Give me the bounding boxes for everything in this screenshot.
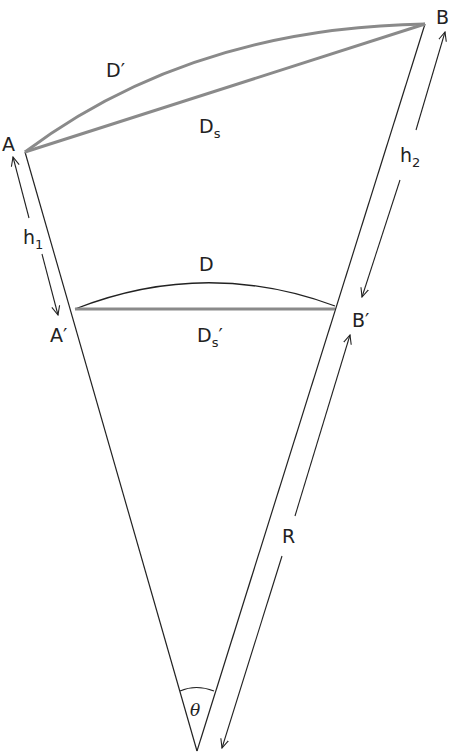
r-arrow-down [222, 556, 282, 748]
label-ds-prime: Ds′ [197, 326, 223, 345]
h1-arrow-up [13, 157, 29, 218]
label-h1-main: h [23, 226, 35, 248]
label-ds: Ds [199, 117, 220, 136]
chord-ds [25, 24, 425, 152]
label-ds-main: D [199, 115, 214, 137]
h2-arrow-up [416, 32, 445, 130]
radial-line-b [197, 24, 425, 751]
label-a: A [2, 135, 15, 154]
label-theta: θ [190, 702, 200, 719]
label-h2: h2 [400, 146, 420, 165]
label-r: R [282, 527, 295, 546]
label-b-prime: B′ [352, 311, 369, 330]
label-h2-sub: 2 [412, 155, 420, 170]
label-d: D [199, 255, 214, 274]
label-ds-prime-mark: ′ [218, 324, 222, 346]
label-b: B [436, 8, 449, 27]
arc-d [75, 283, 335, 309]
label-a-prime: A′ [50, 326, 67, 345]
diagram-canvas [0, 0, 457, 753]
label-h1: h1 [23, 228, 43, 247]
label-d-prime: D′ [106, 61, 125, 80]
label-ds-sub: s [214, 126, 221, 141]
radial-line-a [25, 152, 197, 751]
theta-arc [180, 688, 214, 692]
label-h2-main: h [400, 144, 412, 166]
label-ds-prime-sub: s [212, 335, 219, 350]
label-h1-sub: 1 [35, 237, 43, 252]
label-ds-prime-main: D [197, 324, 212, 346]
r-arrow-up [295, 335, 350, 516]
h1-arrow-down [42, 254, 58, 315]
h2-arrow-down [362, 180, 400, 297]
